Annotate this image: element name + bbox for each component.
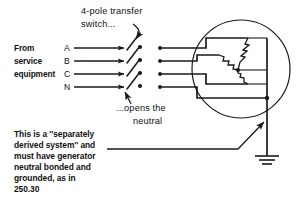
feeder-path-n	[160, 87, 267, 98]
conductor-label-c: C	[64, 69, 70, 79]
feeder-path-b	[160, 55, 219, 61]
note-line-5: grounded, as in	[14, 173, 76, 184]
conductor-label-a: A	[64, 43, 70, 53]
feeder-path-a	[160, 38, 248, 48]
earth-ground-symbol	[255, 156, 279, 164]
switch-contact-n	[138, 84, 142, 88]
transfer-switch-callout-line1: 4-pole transfer	[81, 6, 143, 17]
leader-transfer-switch	[133, 24, 139, 39]
source-label-line3: equipment	[14, 70, 55, 80]
transfer-switch-callout-line2: switch...	[81, 19, 116, 30]
feeder-path-c	[160, 74, 248, 84]
opens-neutral-callout-line1: ...opens the	[116, 103, 166, 114]
source-label-line2: service	[14, 57, 42, 67]
note-line-3: must have generator	[14, 151, 95, 162]
bonding-jumper-node	[265, 96, 269, 100]
note-line-2: derived system'' and	[14, 140, 95, 151]
electrical-diagram: 4-pole transfer switch... From service e…	[0, 0, 297, 206]
incoming-conductors	[74, 48, 124, 87]
neutral-ground-bond	[248, 38, 269, 156]
transfer-switch-poles	[127, 33, 142, 89]
note-line-4: neutral bonded and	[14, 162, 91, 173]
opens-neutral-callout-line2: neutral	[133, 116, 162, 127]
note-line-1: This is a ''separately	[14, 129, 94, 140]
generator-feeders	[158, 38, 267, 98]
conductor-label-n: N	[64, 82, 70, 92]
source-label-line1: From	[14, 44, 34, 54]
leader-separately-derived	[107, 122, 264, 149]
note-line-6: 250.30	[14, 184, 39, 195]
generator-circle	[192, 20, 290, 118]
winding-phase-b	[219, 55, 238, 70]
wye-connected-generator	[219, 38, 267, 84]
winding-phase-c	[238, 70, 248, 84]
winding-phase-a	[238, 38, 249, 70]
conductor-label-b: B	[64, 56, 70, 66]
